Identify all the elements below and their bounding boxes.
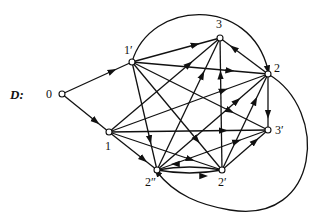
- arrowhead-icon: [201, 75, 202, 78]
- arrowhead-icon: [235, 101, 237, 103]
- node-label-0: 0: [46, 87, 52, 101]
- arrowhead-icon: [192, 45, 195, 46]
- node-label-2pp: 2″: [145, 175, 156, 189]
- arrowhead-icon: [233, 48, 235, 50]
- node-2pp: [154, 167, 160, 173]
- arrowhead-icon: [227, 110, 230, 111]
- node-1: [106, 129, 112, 135]
- edge-2-to-3: [220, 38, 268, 74]
- edge-0-to-1: [62, 94, 109, 132]
- arrowhead-icon: [141, 157, 143, 159]
- arrowhead-icon: [254, 101, 255, 104]
- node-label-1p: 1′: [124, 43, 133, 57]
- arrowhead-icon: [253, 141, 255, 143]
- digraph-d: D: 01′3213′2″2′: [0, 0, 315, 219]
- node-2p: [219, 167, 225, 173]
- node-label-2p: 2′: [218, 175, 227, 189]
- edge-2p-to-3p: [222, 130, 268, 170]
- node-label-2: 2: [274, 61, 280, 75]
- arrowhead-icon: [110, 71, 113, 72]
- node-1p: [129, 59, 135, 65]
- node-0: [59, 91, 65, 97]
- node-3: [217, 35, 223, 41]
- node-2: [265, 71, 271, 77]
- node-label-3: 3: [216, 17, 222, 31]
- node-label-1: 1: [105, 139, 111, 153]
- arrowhead-icon: [94, 119, 96, 121]
- edge-2pp-to-2p: [157, 170, 222, 173]
- edge-0-to-1p: [62, 62, 132, 94]
- node-label-3p: 3′: [275, 123, 284, 137]
- node-3p: [265, 127, 271, 133]
- edges: [62, 38, 268, 176]
- graph-title: D:: [9, 87, 24, 102]
- edge-1p-to-2p: [132, 62, 222, 170]
- arc-1p-to-2: [132, 15, 268, 70]
- arrowhead-icon: [149, 137, 150, 140]
- edge-2p-to-2pp: [157, 167, 222, 170]
- arrowhead-icon: [187, 64, 189, 66]
- edge-2p-to-3: [220, 38, 222, 170]
